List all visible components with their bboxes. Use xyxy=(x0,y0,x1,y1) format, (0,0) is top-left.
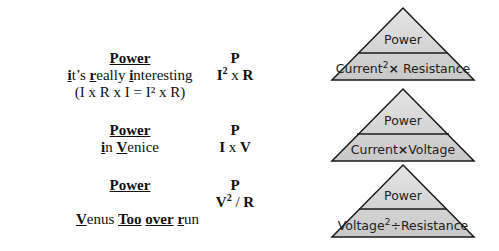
mnemonic-text: n xyxy=(105,139,116,155)
formula-operator: x xyxy=(225,139,240,155)
triangle-top-label: Power xyxy=(384,113,423,128)
formula-var-b: R xyxy=(243,67,254,83)
formula-top: P xyxy=(195,122,275,139)
formula: V2 / R xyxy=(195,194,275,211)
mnemonic-text: enice xyxy=(127,139,159,155)
formula-var-b: V xyxy=(240,139,251,155)
formula: I x V xyxy=(195,139,275,156)
formula-var-b: R xyxy=(243,194,254,210)
mnemonic-letter: V xyxy=(76,211,87,227)
power-triangle-1: Power Current2× Resistance xyxy=(325,4,485,84)
mnemonic-text: un xyxy=(184,211,199,227)
mnemonic-letter: Too xyxy=(118,211,142,227)
formula-block-1: P I2 x R xyxy=(195,50,275,84)
formula-block-3: P V2 / R xyxy=(195,177,275,211)
formula-operator: / xyxy=(232,194,244,210)
formula: I2 x R xyxy=(195,67,275,84)
formula-top: P xyxy=(195,50,275,67)
formula-top: P xyxy=(195,177,275,194)
mnemonic-text: enus xyxy=(87,211,118,227)
triangle-top-label: Power xyxy=(384,32,423,47)
triangle-top-label: Power xyxy=(384,188,423,203)
triangle-bottom-label: Voltage2÷Resistance xyxy=(338,217,469,233)
power-triangle-3: Power Voltage2÷Resistance xyxy=(325,161,485,241)
formula-operator: x xyxy=(228,67,243,83)
formula-var-a: V xyxy=(216,194,227,210)
formula-block-2: P I x V xyxy=(195,122,275,156)
mnemonic-letter: over xyxy=(145,211,173,227)
mnemonic-text: t’s xyxy=(72,67,90,83)
triangle-bottom-label: Current×Voltage xyxy=(351,142,456,157)
mnemonic-text: nteresting xyxy=(133,67,192,83)
power-triangle-2: Power Current×Voltage xyxy=(325,85,485,165)
mnemonic-note: (I x R x I = I² x R) xyxy=(30,84,230,101)
mnemonic-letter: V xyxy=(116,139,127,155)
mnemonic-text: eally xyxy=(96,67,129,83)
triangle-bottom-label: Current2× Resistance xyxy=(336,60,471,76)
